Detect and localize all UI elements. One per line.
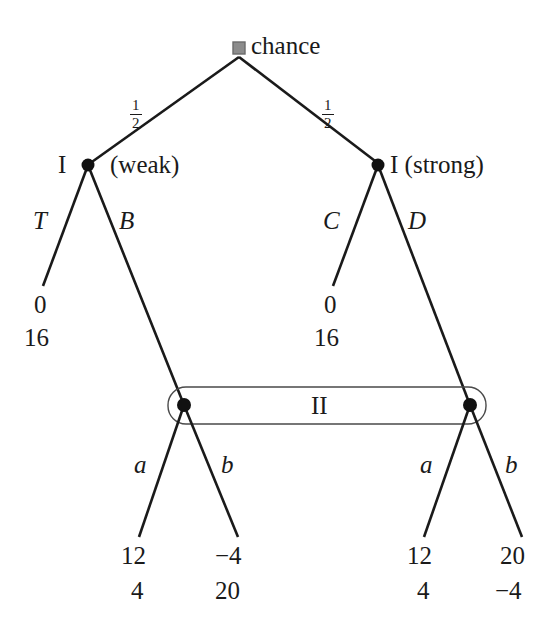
payoff-C-bottom: 16: [314, 325, 339, 350]
probability-right-denominator: 2: [322, 116, 334, 131]
action-label-ii-right-b: b: [505, 452, 518, 477]
action-label-B: B: [119, 208, 134, 233]
probability-left-numerator: 1: [130, 98, 142, 113]
probability-right-numerator: 1: [322, 98, 334, 113]
probability-left: 1 2: [130, 98, 142, 132]
information-set-label: II: [311, 393, 328, 418]
action-label-ii-right-a: a: [420, 452, 433, 477]
action-label-C: C: [323, 208, 340, 233]
payoff-Ba-top: 12: [121, 543, 146, 568]
tree-canvas: [0, 0, 554, 632]
edge-strong-D: [378, 165, 470, 405]
chance-node: [233, 42, 245, 54]
payoff-Db-bottom: −4: [495, 578, 522, 603]
node-label-player1-left: I: [58, 152, 66, 177]
probability-left-denominator: 2: [130, 116, 142, 131]
payoff-Bb-bottom: 20: [215, 578, 240, 603]
action-label-D: D: [408, 208, 426, 233]
payoff-T-bottom: 16: [24, 325, 49, 350]
node-player2-right: [463, 398, 477, 412]
node-player2-left: [177, 398, 191, 412]
action-label-ii-left-a: a: [134, 452, 147, 477]
payoff-C-top: 0: [324, 292, 337, 317]
payoff-T-top: 0: [34, 292, 47, 317]
node-player1-weak: [82, 159, 95, 172]
game-tree-figure: chance 1 2 1 2 I (weak) I (strong) T B C…: [0, 0, 554, 632]
payoff-Db-top: 20: [500, 543, 525, 568]
node-label-player1-right: I (strong): [390, 152, 484, 177]
chance-node-label: chance: [251, 33, 320, 58]
action-label-ii-left-b: b: [221, 452, 234, 477]
node-player1-strong: [372, 159, 385, 172]
action-label-T: T: [33, 208, 47, 233]
edge-chance-to-strong: [239, 57, 379, 164]
payoff-Da-bottom: 4: [417, 578, 430, 603]
node-type-label-weak: (weak): [110, 152, 179, 177]
probability-right: 1 2: [322, 98, 334, 132]
payoff-Bb-top: −4: [215, 543, 242, 568]
edge-weak-B: [88, 165, 184, 405]
edge-weak-T: [43, 165, 88, 286]
payoff-Da-top: 12: [407, 543, 432, 568]
payoff-Ba-bottom: 4: [131, 578, 144, 603]
edge-chance-to-weak: [89, 57, 239, 164]
